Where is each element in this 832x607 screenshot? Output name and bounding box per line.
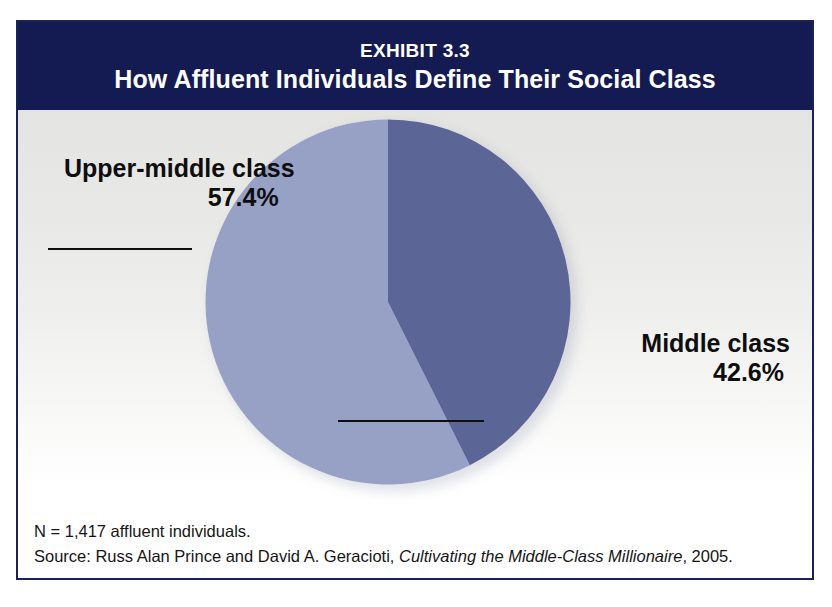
- exhibit-footnotes: N = 1,417 affluent individuals. Source: …: [34, 519, 804, 569]
- exhibit-title-banner: EXHIBIT 3.3 How Affluent Individuals Def…: [18, 22, 812, 110]
- pie-label-middle-class: Middle class 42.6%: [641, 329, 790, 387]
- footnote-source-title: Cultivating the Middle-Class Millionaire: [399, 547, 682, 565]
- footnote-source: Source: Russ Alan Prince and David A. Ge…: [34, 544, 804, 569]
- exhibit-number: EXHIBIT 3.3: [360, 41, 470, 61]
- leader-line-upper-middle-class: [48, 248, 192, 250]
- pie-label-middle-class-name: Middle class: [641, 329, 790, 358]
- leader-line-middle-class: [338, 420, 484, 422]
- footnote-sample-size: N = 1,417 affluent individuals.: [34, 519, 804, 544]
- footnote-source-prefix: Source: Russ Alan Prince and David A. Ge…: [34, 547, 399, 565]
- chart-plot-area: Upper-middle class 57.4% Middle class 42…: [18, 110, 812, 580]
- page-title: How Affluent Individuals Define Their So…: [114, 65, 715, 94]
- pie-label-middle-class-value: 42.6%: [641, 358, 790, 387]
- pie-label-upper-middle-class-name: Upper-middle class: [64, 154, 295, 183]
- pie-label-upper-middle-class: Upper-middle class 57.4%: [64, 154, 295, 212]
- pie-label-upper-middle-class-value: 57.4%: [64, 183, 295, 212]
- footnote-source-suffix: , 2005.: [682, 547, 732, 565]
- exhibit-frame: EXHIBIT 3.3 How Affluent Individuals Def…: [16, 20, 814, 580]
